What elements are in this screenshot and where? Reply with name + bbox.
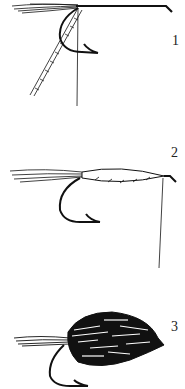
- fly-body-icon: [82, 169, 164, 182]
- step-2-number: 2: [171, 146, 178, 160]
- diagram-drawing: [0, 0, 185, 389]
- hook-eye-icon: [164, 176, 176, 182]
- hook-bend-icon: [60, 178, 100, 222]
- step-3-illustration: [14, 312, 164, 386]
- tail-icon: [14, 337, 70, 347]
- step-1-number: 1: [172, 34, 179, 48]
- thread-icon: [159, 178, 163, 268]
- step-1-illustration: [12, 4, 172, 106]
- step-3-number: 3: [171, 320, 178, 334]
- fly-tying-diagram: 1 2 3: [0, 0, 185, 389]
- step-2-illustration: [10, 169, 176, 268]
- tail-icon: [12, 4, 78, 13]
- thread-icon: [77, 8, 78, 106]
- hook-shank-icon: [76, 6, 172, 12]
- tail-icon: [10, 170, 82, 182]
